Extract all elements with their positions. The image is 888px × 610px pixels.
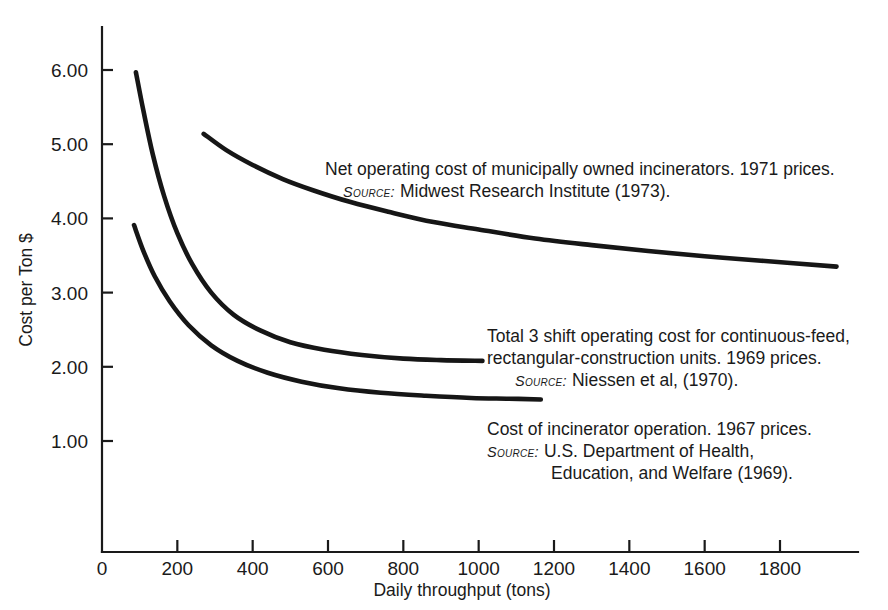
- x-tick-label-400: 400: [237, 558, 269, 579]
- axis-titles: Daily throughput (tons)Cost per Ton $: [16, 233, 551, 600]
- x-tick-label-1400: 1400: [608, 558, 650, 579]
- annotation-incinerators-1971-line-2: Source:Midwest Research Institute (1973)…: [343, 181, 670, 201]
- x-tick-label-1200: 1200: [533, 558, 575, 579]
- x-tick-label-800: 800: [387, 558, 419, 579]
- annotation-continuous-feed-1969-source-label: Source:: [515, 373, 567, 389]
- annotation-continuous-feed-1969-line-2: rectangular-construction units. 1969 pri…: [487, 348, 822, 368]
- x-tick-label-0: 0: [97, 558, 108, 579]
- data-curve-3: [134, 225, 541, 399]
- annotation-continuous-feed-1969: Total 3 shift operating cost for continu…: [487, 326, 850, 390]
- chart-annotations: Net operating cost of municipally owned …: [325, 159, 850, 483]
- x-tick-label-1800: 1800: [759, 558, 801, 579]
- y-tick-label-1.00: 1.00: [51, 431, 88, 452]
- y-tick-label-3.00: 3.00: [51, 283, 88, 304]
- annotation-incinerators-1971-source-label: Source:: [343, 184, 395, 200]
- y-tick-label-4.00: 4.00: [51, 208, 88, 229]
- annotation-incinerators-1971-line-1: Net operating cost of municipally owned …: [325, 159, 835, 179]
- annotation-continuous-feed-1969-source-value: Niessen et al, (1970).: [572, 370, 738, 390]
- x-axis-title: Daily throughput (tons): [373, 580, 550, 600]
- annotation-incinerator-operation-1967-source-label: Source:: [487, 444, 539, 460]
- annotation-continuous-feed-1969-line-3: Source:Niessen et al, (1970).: [515, 370, 738, 390]
- annotation-incinerators-1971-source-value: Midwest Research Institute (1973).: [400, 181, 670, 201]
- axis-tick-labels: 1.002.003.004.005.006.000200400600800100…: [51, 60, 801, 579]
- y-axis-title: Cost per Ton $: [16, 233, 36, 347]
- y-tick-label-6.00: 6.00: [51, 60, 88, 81]
- annotation-incinerator-operation-1967-line-3: Education, and Welfare (1969).: [551, 463, 793, 483]
- x-tick-label-200: 200: [161, 558, 193, 579]
- data-curve-2: [136, 72, 483, 361]
- x-tick-label-1000: 1000: [458, 558, 500, 579]
- y-tick-label-2.00: 2.00: [51, 357, 88, 378]
- annotation-incinerator-operation-1967: Cost of incinerator operation. 1967 pric…: [487, 419, 812, 483]
- x-tick-label-600: 600: [312, 558, 344, 579]
- annotation-incinerator-operation-1967-line-2: Source:U.S. Department of Health,: [487, 441, 754, 461]
- annotation-incinerator-operation-1967-source-value: U.S. Department of Health,: [544, 441, 754, 461]
- x-tick-label-1600: 1600: [684, 558, 726, 579]
- chart-svg: 1.002.003.004.005.006.000200400600800100…: [0, 0, 888, 610]
- annotation-incinerator-operation-1967-line-1: Cost of incinerator operation. 1967 pric…: [487, 419, 812, 439]
- chart-figure: 1.002.003.004.005.006.000200400600800100…: [0, 0, 888, 610]
- y-tick-label-5.00: 5.00: [51, 134, 88, 155]
- annotation-continuous-feed-1969-line-1: Total 3 shift operating cost for continu…: [487, 326, 850, 346]
- annotation-incinerators-1971: Net operating cost of municipally owned …: [325, 159, 835, 201]
